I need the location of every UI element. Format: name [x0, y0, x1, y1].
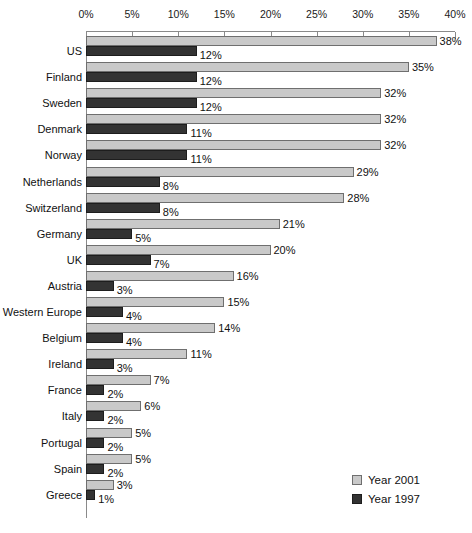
bar-chart: 0%5%10%15%20%25%30%35%40% US38%12%Finlan… [0, 0, 472, 533]
bar-year-1997 [86, 203, 160, 213]
x-tick-label: 10% [168, 8, 189, 20]
bar-value-label-1997: 4% [126, 310, 142, 322]
category-label: Finland [0, 71, 82, 83]
bar-year-1997 [86, 359, 114, 369]
category-label: Spain [0, 463, 82, 475]
chart-category-row: Switzerland28%8% [0, 193, 472, 213]
bar-year-2001 [86, 271, 234, 281]
x-tick-label: 0% [78, 8, 93, 20]
bar-value-label-1997: 12% [200, 101, 222, 113]
category-label: US [0, 45, 82, 57]
x-tick-label: 20% [260, 8, 281, 20]
bar-value-label-2001: 15% [227, 296, 249, 308]
category-label: Netherlands [0, 176, 82, 188]
category-label: UK [0, 254, 82, 266]
category-label: Ireland [0, 358, 82, 370]
bar-value-label-2001: 11% [190, 348, 211, 360]
bar-value-label-1997: 12% [200, 49, 222, 61]
bar-value-label-2001: 20% [274, 244, 296, 256]
bar-value-label-1997: 12% [200, 75, 222, 87]
bar-value-label-2001: 7% [154, 374, 170, 386]
x-tick-label: 25% [306, 8, 327, 20]
x-tick-label: 35% [398, 8, 419, 20]
category-label: Denmark [0, 123, 82, 135]
x-tick-label: 15% [214, 8, 235, 20]
bar-value-label-1997: 2% [107, 414, 123, 426]
bar-year-2001 [86, 219, 280, 229]
bar-value-label-2001: 38% [440, 35, 462, 47]
bar-year-2001 [86, 62, 409, 72]
bar-year-1997 [86, 385, 104, 395]
bar-value-label-1997: 4% [126, 336, 142, 348]
bar-value-label-1997: 8% [163, 206, 179, 218]
bar-year-2001 [86, 480, 114, 490]
chart-category-row: Denmark32%11% [0, 114, 472, 134]
bar-year-1997 [86, 333, 123, 343]
bar-year-2001 [86, 349, 187, 359]
bar-year-2001 [86, 193, 344, 203]
bar-value-label-2001: 6% [144, 400, 160, 412]
chart-category-row: Finland35%12% [0, 62, 472, 82]
bar-value-label-1997: 7% [154, 258, 170, 270]
bar-year-1997 [86, 255, 151, 265]
x-axis-tick-labels: 0%5%10%15%20%25%30%35%40% [0, 0, 472, 30]
category-label: Western Europe [0, 306, 82, 318]
legend-swatch-icon [352, 494, 362, 504]
category-label: Portugal [0, 437, 82, 449]
category-label: Germany [0, 228, 82, 240]
bar-year-1997 [86, 124, 187, 134]
chart-category-row: Norway32%11% [0, 140, 472, 160]
chart-category-row: Western Europe15%4% [0, 297, 472, 317]
bar-year-1997 [86, 72, 197, 82]
chart-category-row: Ireland11%3% [0, 349, 472, 369]
bar-value-label-2001: 16% [237, 270, 259, 282]
bar-year-2001 [86, 297, 224, 307]
bar-year-1997 [86, 150, 187, 160]
bar-year-2001 [86, 323, 215, 333]
bar-value-label-1997: 5% [135, 232, 151, 244]
chart-category-row: Belgium14%4% [0, 323, 472, 343]
bar-year-2001 [86, 167, 354, 177]
bar-value-label-1997: 8% [163, 180, 179, 192]
bar-value-label-1997: 11% [190, 153, 211, 165]
bar-value-label-2001: 5% [135, 453, 151, 465]
bar-year-1997 [86, 46, 197, 56]
category-label: Greece [0, 489, 82, 501]
bar-value-label-1997: 2% [107, 441, 123, 453]
bar-value-label-1997: 2% [107, 467, 123, 479]
x-tick-label: 30% [352, 8, 373, 20]
bar-value-label-2001: 32% [384, 87, 406, 99]
bar-value-label-1997: 2% [107, 388, 123, 400]
bar-value-label-2001: 3% [117, 479, 133, 491]
bar-year-2001 [86, 88, 381, 98]
bar-year-1997 [86, 281, 114, 291]
category-label: Norway [0, 149, 82, 161]
bar-value-label-2001: 21% [283, 218, 305, 230]
chart-category-row: Germany21%5% [0, 219, 472, 239]
bar-year-2001 [86, 401, 141, 411]
chart-category-row: Portugal5%2% [0, 428, 472, 448]
bar-year-2001 [86, 375, 151, 385]
bar-value-label-2001: 5% [135, 427, 151, 439]
chart-category-row: US38%12% [0, 36, 472, 56]
bar-year-1997 [86, 307, 123, 317]
category-label: Switzerland [0, 202, 82, 214]
bar-year-1997 [86, 411, 104, 421]
bar-year-1997 [86, 464, 104, 474]
bar-year-2001 [86, 428, 132, 438]
bar-year-2001 [86, 140, 381, 150]
chart-category-row: Italy6%2% [0, 401, 472, 421]
bar-value-label-2001: 32% [384, 113, 406, 125]
chart-category-row: Netherlands29%8% [0, 167, 472, 187]
bar-value-label-1997: 3% [117, 362, 133, 374]
bar-year-1997 [86, 438, 104, 448]
chart-category-row: Austria16%3% [0, 271, 472, 291]
chart-category-row: Sweden32%12% [0, 88, 472, 108]
legend-swatch-icon [352, 475, 362, 485]
bar-year-1997 [86, 490, 95, 500]
x-tick-label: 40% [444, 8, 465, 20]
bar-value-label-2001: 14% [218, 322, 240, 334]
legend-label: Year 1997 [368, 492, 420, 506]
chart-category-row: Spain5%2% [0, 454, 472, 474]
category-label: Italy [0, 410, 82, 422]
